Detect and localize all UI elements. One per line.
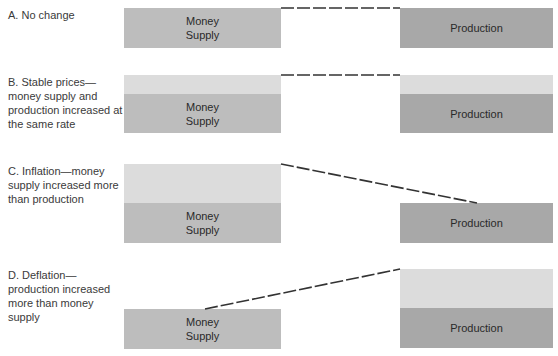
production-label: Production: [450, 321, 503, 335]
money-supply-label: Money Supply: [186, 315, 220, 343]
production-increase-d: [400, 269, 553, 308]
money-supply-label: Money Supply: [186, 100, 220, 128]
production-label: Production: [450, 216, 503, 230]
money-supply-box-d: Money Supply: [124, 309, 281, 349]
production-box-a: Production: [400, 8, 553, 48]
caption-a: A. No change: [8, 8, 126, 22]
dashed-line-c: [281, 164, 477, 203]
production-label: Production: [450, 21, 503, 35]
production-increase-b: [400, 75, 553, 94]
production-box-d: Production: [400, 308, 553, 348]
money-supply-label: Money Supply: [186, 209, 220, 237]
money-supply-box-a: Money Supply: [124, 8, 281, 48]
production-box-b: Production: [400, 94, 553, 133]
caption-c: C. Inflation—money supply increased more…: [8, 164, 126, 206]
production-box-c: Production: [400, 203, 553, 243]
dashed-line-d: [205, 269, 400, 309]
money-supply-increase-b: [124, 75, 281, 94]
money-supply-increase-c: [124, 164, 281, 203]
caption-b: B. Stable prices—money supply and produc…: [8, 75, 126, 131]
money-supply-box-b: Money Supply: [124, 94, 281, 133]
money-supply-label: Money Supply: [186, 14, 220, 42]
money-supply-box-c: Money Supply: [124, 203, 281, 243]
production-label: Production: [450, 107, 503, 121]
caption-d: D. Deflation—production increased more t…: [8, 268, 126, 324]
